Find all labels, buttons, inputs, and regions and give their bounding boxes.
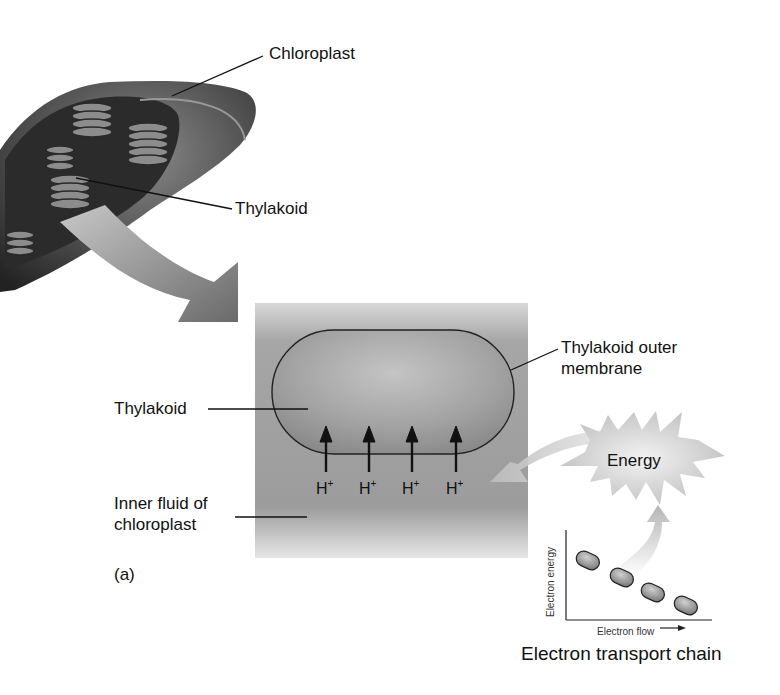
label-inner-fluid-2: chloroplast bbox=[114, 515, 196, 535]
electron-carrier bbox=[672, 594, 700, 618]
label-inner-fluid-1: Inner fluid of bbox=[114, 494, 208, 514]
panel-label: (a) bbox=[114, 565, 135, 585]
label-outer-membrane-2: membrane bbox=[561, 359, 642, 379]
etc-to-energy-arrow bbox=[620, 505, 670, 576]
label-axis-y: Electron energy bbox=[541, 547, 561, 617]
proton-label: H+ bbox=[446, 478, 463, 498]
zoom-arrow bbox=[60, 205, 238, 322]
thylakoid-compartment bbox=[272, 330, 514, 454]
label-outer-membrane-1: Thylakoid outer bbox=[561, 338, 677, 358]
label-chloroplast: Chloroplast bbox=[269, 44, 355, 64]
electron-carrier bbox=[574, 549, 602, 573]
label-etc-title: Electron transport chain bbox=[521, 644, 722, 664]
proton-label: H+ bbox=[359, 478, 376, 498]
proton-label: H+ bbox=[316, 478, 333, 498]
label-thylakoid-left: Thylakoid bbox=[114, 399, 187, 419]
electron-carrier bbox=[639, 581, 667, 605]
etc-graph bbox=[566, 530, 712, 631]
proton-label: H+ bbox=[402, 478, 419, 498]
label-axis-x: Electron flow bbox=[597, 622, 654, 642]
label-thylakoid-top: Thylakoid bbox=[235, 199, 308, 219]
label-energy: Energy bbox=[607, 451, 661, 471]
